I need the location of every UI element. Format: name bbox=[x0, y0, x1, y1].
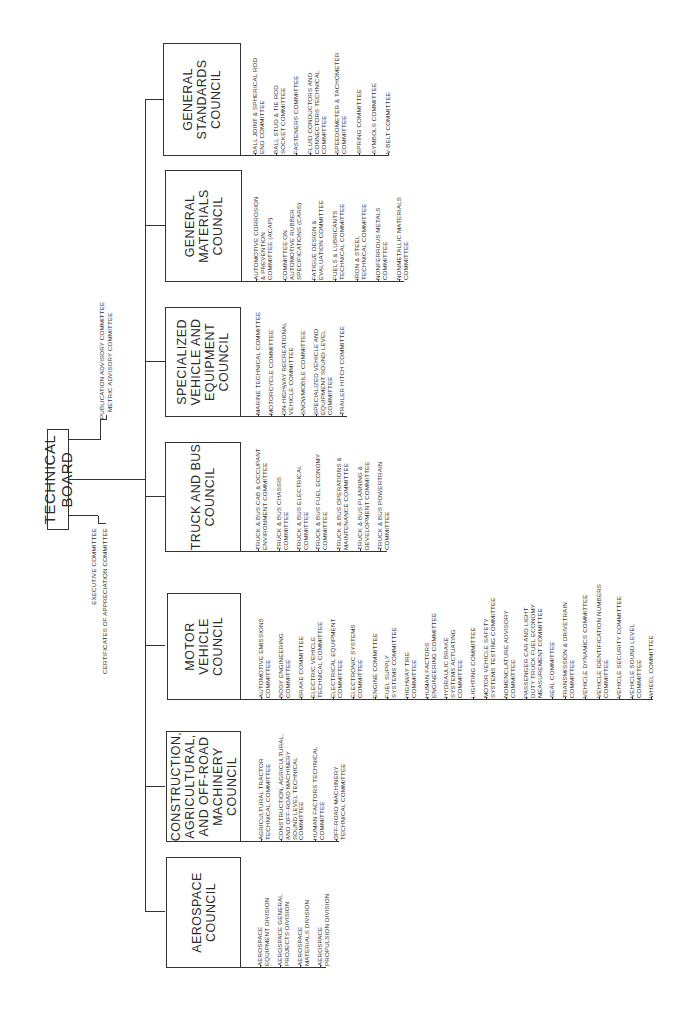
committee-tick bbox=[335, 279, 336, 282]
committee-tick bbox=[315, 839, 316, 842]
motor-bracket bbox=[241, 699, 653, 700]
committee: CONSTRUCTION, AGRICULTURAL, AND OFF-ROAD… bbox=[278, 734, 305, 840]
committee-tick bbox=[380, 549, 381, 552]
committee-tick bbox=[399, 279, 400, 282]
committee: HUMAN FACTORS TECHNICAL COMMITTEE bbox=[312, 746, 326, 840]
committee: FUELS & LUBRICANTS TECHNICAL COMMITTEE bbox=[332, 203, 346, 280]
committee-tick bbox=[255, 153, 256, 156]
committee: TRUCK & BUS ELECTRICAL COMMITTEE bbox=[296, 465, 310, 550]
truck-and-bus-council-box: TRUCK AND BUS COUNCIL bbox=[165, 442, 241, 552]
board-upper-tick-2 bbox=[106, 415, 107, 420]
board-lower-connector bbox=[69, 515, 98, 516]
committee: VEHICLE SOUND LEVEL COMMITTEE bbox=[629, 624, 643, 698]
aerospace-bracket bbox=[241, 967, 326, 968]
committee-tick bbox=[284, 414, 285, 417]
aerospace-council-box: AEROSPACE COUNCIL bbox=[166, 857, 241, 968]
committee-tick bbox=[333, 697, 334, 700]
standards-bracket bbox=[241, 155, 389, 156]
committee-tick bbox=[359, 153, 360, 156]
committee-tick bbox=[357, 279, 358, 282]
committee: WHEEL COMMITTEE bbox=[648, 635, 655, 698]
general-standards-council-box: GENERAL STANDARDS COUNCIL bbox=[163, 43, 241, 156]
committee-tick bbox=[299, 549, 300, 552]
committee-tick bbox=[599, 697, 600, 700]
construction-bracket bbox=[241, 841, 339, 842]
committee: SPRING COMMITTEE bbox=[356, 89, 363, 154]
general-standards-council-label: GENERAL STANDARDS COUNCIL bbox=[181, 60, 223, 140]
committee: AEROSPACE EQUIPMENT DIVISION bbox=[257, 898, 271, 966]
committee-tick bbox=[336, 839, 337, 842]
committee: TRANSMISSION & DRIVETRAIN COMMITTEE bbox=[562, 602, 576, 698]
committee: BALL JOINT & SPHERICAL ROD END COMMITTEE bbox=[252, 58, 266, 154]
committee: TRUCK & BUS FUEL ECONOMY COMMITTEE bbox=[315, 454, 329, 550]
committee-tick bbox=[300, 965, 301, 968]
committee: FASTENERS COMMITTEE bbox=[293, 76, 300, 154]
motor-drop bbox=[145, 645, 165, 646]
committee: IRON & STEEL TECHNICAL COMMITTEE bbox=[354, 203, 368, 280]
materials-drop bbox=[145, 225, 165, 226]
committee: VEHICLE SECURITY COMMITTEE bbox=[616, 596, 623, 698]
committee: TRUCK & BUS POWERTRAIN COMMITTEE bbox=[377, 462, 391, 550]
committee: NOMENCLATURE ADVISORY COMMITTEE bbox=[503, 610, 517, 698]
specialized-drop bbox=[145, 361, 165, 362]
committee: TRUCK & BUS CAB & OCCUPANT ENVIRONMENT C… bbox=[255, 448, 269, 550]
committee: NONMETALLIC MATERIALS COMMITTEE bbox=[396, 197, 410, 280]
committee: SEAL COMMITTEE bbox=[549, 641, 556, 698]
general-materials-council-label: GENERAL MATERIALS COUNCIL bbox=[183, 189, 225, 263]
committee-tick bbox=[301, 697, 302, 700]
committee: ELECTRONIC SYSTEMS COMMITTEE bbox=[350, 624, 364, 698]
committee-tick bbox=[427, 697, 428, 700]
committee: HUMAN FACTORS ENGINEERING COMMITTEE bbox=[424, 613, 438, 698]
board-upper-connector bbox=[69, 439, 100, 440]
committee-tick bbox=[316, 414, 317, 417]
committee: SNOWMOBILE COMMITTEE bbox=[300, 331, 307, 415]
committee: LIGHTING COMMITTEE bbox=[470, 627, 477, 698]
general-materials-council-box: GENERAL MATERIALS COUNCIL bbox=[165, 170, 242, 282]
committee: FUEL SUPPLY SYSTEMS COMMITTEE bbox=[384, 627, 398, 698]
specialized-bracket bbox=[241, 416, 347, 417]
construction-council-label: CONSTRUCTION, AGRICULTURAL, AND OFF-ROAD… bbox=[169, 732, 239, 841]
committee-tick bbox=[486, 697, 487, 700]
materials-bracket bbox=[242, 281, 404, 282]
committee: FLUID CONDUCTORS AND CONNECTORS TECHNICA… bbox=[307, 70, 327, 154]
committee-tick bbox=[552, 697, 553, 700]
board-lower-tick bbox=[98, 523, 106, 524]
committee-tick bbox=[565, 697, 566, 700]
executive-committee: EXECUTIVE COMMITTEE bbox=[90, 528, 97, 605]
committee-tick bbox=[281, 697, 282, 700]
committee: MOTORCYCLE COMMITTEE bbox=[268, 330, 275, 415]
committee: TRUCK & BUS OPERATIONS & MAINTENANCE COM… bbox=[336, 457, 350, 550]
committee-tick bbox=[342, 414, 343, 417]
committee-tick bbox=[407, 697, 408, 700]
committee-tick bbox=[285, 279, 286, 282]
committee-tick bbox=[506, 697, 507, 700]
committee: MARINE TECHNICAL COMMITTEE bbox=[255, 312, 262, 415]
truck-bracket bbox=[241, 551, 387, 552]
committee-tick bbox=[258, 549, 259, 552]
motor-vehicle-council-box: MOTOR VEHICLE COUNCIL bbox=[167, 593, 241, 700]
committee-tick bbox=[585, 697, 586, 700]
committee-tick bbox=[446, 697, 447, 700]
committee-tick bbox=[310, 153, 311, 156]
committee: HIGHWAY TIRE COMMITTEE bbox=[404, 652, 418, 698]
committee: SPEEDOMETER & TACHOMETER COMMITTEE bbox=[334, 53, 348, 154]
board-upper-branch bbox=[100, 420, 101, 440]
committee: PASSENGER CAR AND LIGHT DUTY TRUCK FUEL … bbox=[523, 604, 543, 698]
committee: ENGINE COMMITTEE bbox=[372, 633, 379, 698]
truck-and-bus-council-label: TRUCK AND BUS COUNCIL bbox=[189, 444, 217, 551]
committee-tick bbox=[388, 153, 389, 156]
aerospace-drop bbox=[145, 911, 165, 912]
board-trunk bbox=[69, 479, 145, 480]
committee-tick bbox=[360, 549, 361, 552]
committee-tick bbox=[281, 839, 282, 842]
committee-tick bbox=[279, 549, 280, 552]
committee-tick bbox=[313, 697, 314, 700]
committee: BRAKE COMMITTEE bbox=[298, 636, 305, 698]
committee-tick bbox=[473, 697, 474, 700]
construction-drop bbox=[145, 786, 165, 787]
committee-tick bbox=[271, 414, 272, 417]
committee: NONFERROUS METALS COMMITTEE bbox=[375, 207, 389, 280]
truck-drop bbox=[145, 496, 165, 497]
org-chart-canvas: TECHNICAL BOARD PUBLICATION ADVISORY COM… bbox=[0, 0, 684, 1009]
committee-tick bbox=[375, 697, 376, 700]
